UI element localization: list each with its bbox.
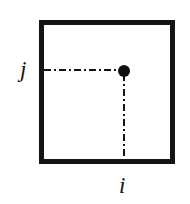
horizontal-index-label-i: i (119, 174, 125, 197)
horizontal-guide-line (44, 69, 125, 71)
matrix-element-node (118, 65, 130, 77)
vertical-index-label-j: j (20, 58, 26, 81)
vertical-guide-line (123, 74, 125, 161)
matrix-boundary-square (39, 20, 175, 164)
index-diagram-figure: j i (0, 0, 190, 204)
